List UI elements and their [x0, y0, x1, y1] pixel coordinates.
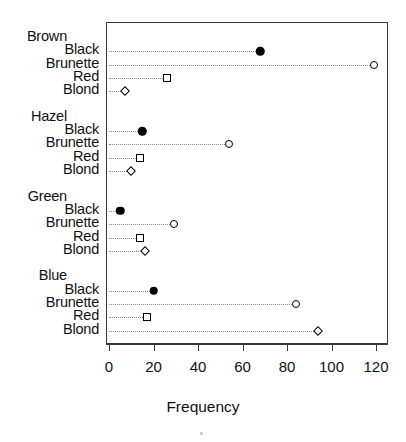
x-axis-title: Frequency [0, 398, 406, 416]
data-point-open-circle-icon [292, 300, 300, 308]
category-label-green-blond: Blond [63, 242, 99, 256]
data-point-open-circle-icon [370, 61, 378, 69]
group-label-blue: Blue [39, 268, 67, 282]
group-label-green: Green [28, 189, 67, 203]
x-tick-label-120: 120 [363, 358, 388, 375]
data-point-filled-circle-icon [256, 47, 265, 56]
data-point-square-icon [136, 154, 144, 162]
x-tick-60 [243, 344, 244, 351]
leader-line [109, 144, 229, 145]
x-tick-label-60: 60 [234, 358, 251, 375]
x-tick-20 [154, 344, 155, 351]
leader-line [109, 304, 296, 305]
leader-line [109, 331, 318, 332]
x-tick-label-0: 0 [105, 358, 113, 375]
data-point-filled-circle-icon [138, 127, 147, 136]
data-point-open-circle-icon [225, 140, 233, 148]
category-label-brown-blond: Blond [63, 82, 99, 96]
leader-line [109, 317, 147, 318]
x-tick-label-20: 20 [145, 358, 162, 375]
leader-line [109, 78, 167, 79]
data-point-filled-circle-icon [149, 286, 158, 295]
x-tick-label-100: 100 [319, 358, 344, 375]
leader-line [109, 51, 260, 52]
category-label-column: BrownBlackBrunetteRedBlondHazelBlackBrun… [0, 0, 103, 344]
x-tick-40 [198, 344, 199, 351]
x-tick-120 [376, 344, 377, 351]
data-point-open-circle-icon [170, 220, 178, 228]
plot-panel [106, 22, 388, 344]
artifact-speck [200, 432, 203, 435]
category-label-blue-blond: Blond [63, 322, 99, 336]
leader-line [109, 224, 174, 225]
category-label-hazel-blond: Blond [63, 162, 99, 176]
data-point-square-icon [143, 313, 151, 321]
leader-line [109, 291, 154, 292]
data-point-square-icon [136, 234, 144, 242]
x-tick-0 [109, 344, 110, 351]
leader-line [109, 65, 374, 66]
x-axis-line [106, 344, 388, 345]
x-tick-label-40: 40 [190, 358, 207, 375]
dot-plot-figure: BrownBlackBrunetteRedBlondHazelBlackBrun… [0, 0, 406, 442]
group-label-hazel: Hazel [31, 109, 67, 123]
x-tick-label-80: 80 [279, 358, 296, 375]
x-tick-80 [287, 344, 288, 351]
x-tick-100 [332, 344, 333, 351]
group-label-brown: Brown [27, 29, 67, 43]
data-point-filled-circle-icon [116, 207, 125, 216]
data-point-square-icon [163, 74, 171, 82]
